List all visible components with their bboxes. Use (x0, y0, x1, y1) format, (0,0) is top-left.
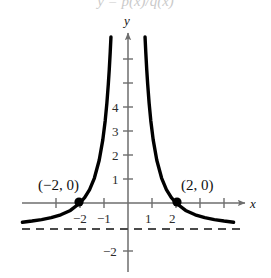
x-tick-label: −2 (73, 212, 87, 225)
x-tick-label: −1 (97, 212, 111, 225)
y-axis-label: y (124, 14, 130, 27)
x-axis-label: x (250, 197, 256, 210)
graph-figure: y = p(x)/q(x) y x −2−112 4321−2 (−2, 0)(… (0, 0, 271, 278)
y-tick-label: 3 (112, 125, 119, 138)
y-tick-label: 2 (112, 149, 119, 162)
y-tick-label: 1 (112, 173, 119, 186)
left-intercept-label: (−2, 0) (38, 178, 79, 193)
coordinate-plot (0, 0, 271, 278)
right-intercept-label: (2, 0) (181, 178, 214, 193)
y-tick-label: −2 (103, 245, 117, 258)
x-tick-label: 1 (145, 212, 152, 225)
y-tick-label: 4 (112, 101, 119, 114)
x-tick-label: 2 (169, 212, 176, 225)
